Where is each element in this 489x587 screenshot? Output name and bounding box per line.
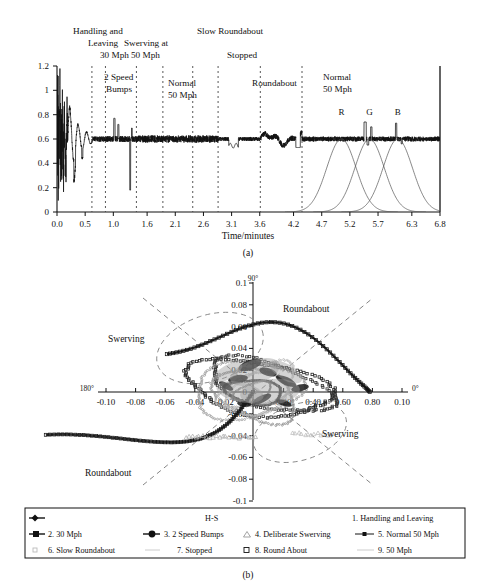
panel-a-xtick-label-3: 1.6 (141, 219, 153, 229)
trajectory-marker (209, 358, 211, 360)
panel-a-xtick-label-11: 5.7 (372, 219, 384, 229)
trajectory-marker (305, 382, 307, 384)
trajectory-marker (259, 406, 261, 408)
trajectory-marker (237, 406, 239, 408)
trajectory-marker (292, 416, 294, 418)
trajectory-marker (256, 357, 258, 359)
panel-b-angle-0: 0° (412, 384, 419, 393)
legend-marker-filled-square-icon (33, 531, 39, 537)
legend-item-2[interactable]: 2. 30 Mph (29, 530, 82, 539)
trajectory-marker (224, 356, 226, 358)
trajectory-marker (187, 368, 189, 370)
panel-b-angle-180: 180° (80, 384, 94, 393)
trajectory-marker (260, 413, 262, 415)
legend-label-7: 7. Stopped (177, 546, 212, 555)
trajectory-marker (329, 407, 331, 409)
legend-item-6[interactable]: 6. Slow Roundabout (33, 546, 116, 555)
legend-label-9: 9. 50 Mph (378, 546, 412, 555)
trajectory-marker (211, 390, 213, 392)
panel-b-xtick-label-10: 0.10 (394, 397, 410, 407)
panel-a-xtick-label-6: 3.1 (226, 219, 237, 229)
legend-item-9[interactable]: 9. 50 Mph (357, 546, 412, 555)
trajectory-marker (278, 423, 280, 425)
trajectory-marker (241, 419, 243, 421)
trajectory-marker (225, 362, 227, 364)
trajectory-marker (289, 409, 291, 411)
legend-item-7[interactable]: 7. Stopped (145, 546, 212, 555)
trajectory-marker-triangle (253, 435, 257, 439)
trajectory-marker (228, 358, 230, 360)
trajectory-marker-triangle (196, 434, 200, 438)
legend-marker-diamond-icon (32, 515, 39, 522)
trajectory-marker (254, 418, 256, 420)
trajectory-marker (320, 410, 322, 412)
trajectory-marker (218, 395, 220, 397)
legend-item-8[interactable]: 8. Round About (244, 546, 308, 555)
trajectory-marker (183, 370, 185, 372)
trajectory-marker (263, 414, 265, 416)
trajectory-marker (258, 414, 260, 416)
trajectory-marker (270, 410, 272, 412)
panel-a-xtick-label-5: 2.6 (198, 219, 210, 229)
panel-b-ytick-label-10: -0.1 (233, 496, 247, 506)
trajectory-marker (244, 418, 246, 420)
peak-label-r: R (338, 107, 344, 117)
legend-item-4[interactable]: 4. Deliberate Swerving (244, 530, 331, 539)
legend-label-1: 1. Handling and Leaving (352, 514, 433, 523)
legend-marker-dot-icon (363, 532, 367, 536)
trajectory-marker (303, 392, 305, 394)
region-label-swerving-right: Swerving (322, 429, 359, 439)
trajectory-marker (217, 418, 219, 420)
annotation-2-speed: 2 Speed (104, 72, 134, 82)
legend-label-8: 8. Round About (255, 546, 308, 555)
trajectory-marker (321, 385, 323, 387)
annotation-50-mph-mid: 50 Mph (168, 90, 197, 100)
annotation-slow-roundabout: Slow Roundabout (197, 26, 264, 36)
trajectory-marker (225, 419, 227, 421)
trajectory-marker (220, 363, 222, 365)
panel-a-xtick-label-13: 6.8 (434, 219, 446, 229)
trajectory-marker (230, 361, 232, 363)
trajectory-marker (256, 419, 258, 421)
trajectory-marker (224, 359, 226, 361)
legend-item-3[interactable]: 3. 2 Speed Bumps (143, 530, 224, 539)
panel-a-ytick-4: 0.8 (38, 110, 50, 120)
trajectory-marker (259, 421, 261, 423)
legend: H-S 1. Handling and Leaving 2. 30 Mph 3.… (25, 508, 465, 558)
panel-a-xtick-label-10: 5.2 (344, 219, 355, 229)
legend-label-2: 2. 30 Mph (48, 530, 82, 539)
trajectory-marker (212, 358, 214, 360)
annotation-swerving-at: Swerving at (124, 38, 169, 48)
trajectory-marker (284, 423, 286, 425)
trajectory-marker (270, 416, 272, 418)
trajectory-marker (292, 364, 294, 366)
trajectory-marker (246, 416, 248, 418)
panel-a-xtick-label-9: 4.7 (316, 219, 328, 229)
trajectory-marker (209, 369, 211, 371)
trajectory-marker (314, 375, 316, 377)
panel-a-ytick-3: 0.6 (38, 134, 50, 144)
panel-b-ytick-label-1: 0.08 (231, 300, 247, 310)
trajectory-marker (272, 423, 274, 425)
panel-a-caption: (a) (243, 248, 254, 259)
trajectory-marker (298, 396, 300, 398)
annotation-roundabout-mid: Roundabout (252, 78, 297, 88)
panel-a-xtick-label-4: 2.1 (170, 219, 181, 229)
trajectory-marker-triangle (190, 434, 194, 438)
trajectory-marker (190, 362, 192, 364)
annotation-50-mph-top: 50 Mph (131, 50, 160, 60)
legend-marker-triangle-icon (244, 532, 251, 538)
legend-item-5[interactable]: 5. Normal 50 Mph (355, 530, 439, 539)
legend-header: H-S (205, 514, 219, 523)
panel-a: Handling and Leaving 30 Mph Swerving at … (38, 26, 454, 259)
panel-a-xlabel: Time/minutes (222, 231, 275, 241)
trajectory-marker (282, 423, 284, 425)
panel-b-xtick-label-9: 0.80 (365, 397, 381, 407)
trajectory-marker (329, 382, 331, 384)
panel-a-rgb-peaks (285, 139, 454, 212)
peak-label-g: G (366, 107, 373, 117)
legend-item-1[interactable]: 1. Handling and Leaving (29, 514, 433, 523)
trajectory-marker (238, 419, 240, 421)
trajectory-marker (283, 359, 285, 361)
trajectory-marker (292, 403, 294, 405)
